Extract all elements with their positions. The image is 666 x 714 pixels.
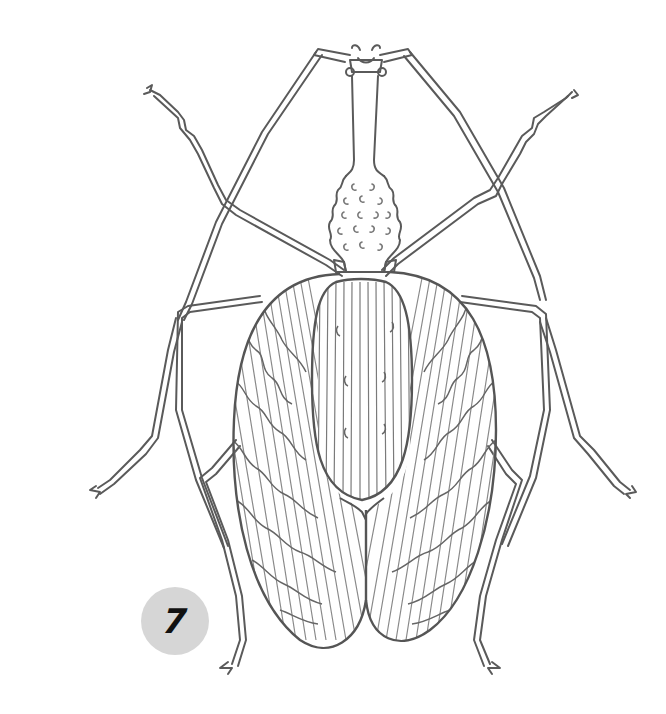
figure-number: 7 (162, 604, 188, 638)
wing-left-outline (234, 274, 366, 648)
antenna-right (380, 49, 546, 300)
leg-front-right (382, 90, 578, 276)
figure-number-badge: 7 (141, 587, 209, 655)
antenna-left (178, 49, 350, 320)
insect-drawing (0, 0, 666, 714)
leg-middle-right (460, 296, 636, 546)
insect-thorax (329, 176, 401, 272)
wing-hatching (224, 278, 502, 640)
insect-head (346, 45, 386, 76)
insect-neck (346, 76, 384, 176)
leg-hind-right (474, 440, 522, 674)
illustration-canvas: 7 (0, 0, 666, 714)
leg-middle-left (90, 296, 262, 548)
